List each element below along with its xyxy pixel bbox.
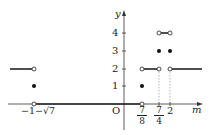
frac-numerator: 7 — [137, 106, 147, 116]
segments — [10, 33, 202, 104]
y-axis-label: y — [115, 9, 121, 19]
y-tick-4: 4 — [112, 28, 118, 38]
x-tick-7-8: 7 8 — [137, 106, 147, 126]
y-tick-3: 3 — [112, 46, 118, 56]
frac-numerator: 7 — [154, 106, 164, 116]
x-tick-7-4: 7 4 — [154, 106, 164, 126]
y-axis-arrow-icon — [122, 10, 126, 16]
y-tick-2: 2 — [112, 64, 118, 74]
dashed-guides — [159, 69, 170, 102]
frac-denominator: 4 — [154, 116, 164, 126]
x-tick-2: 2 — [167, 106, 173, 116]
y-tick-1: 1 — [112, 81, 118, 91]
frac-denominator: 8 — [137, 116, 147, 126]
x-tick-neg-1-minus-sqrt7: −1−√7 — [21, 106, 55, 116]
x-axis-label: m — [192, 105, 201, 115]
origin-label: O — [112, 106, 120, 116]
